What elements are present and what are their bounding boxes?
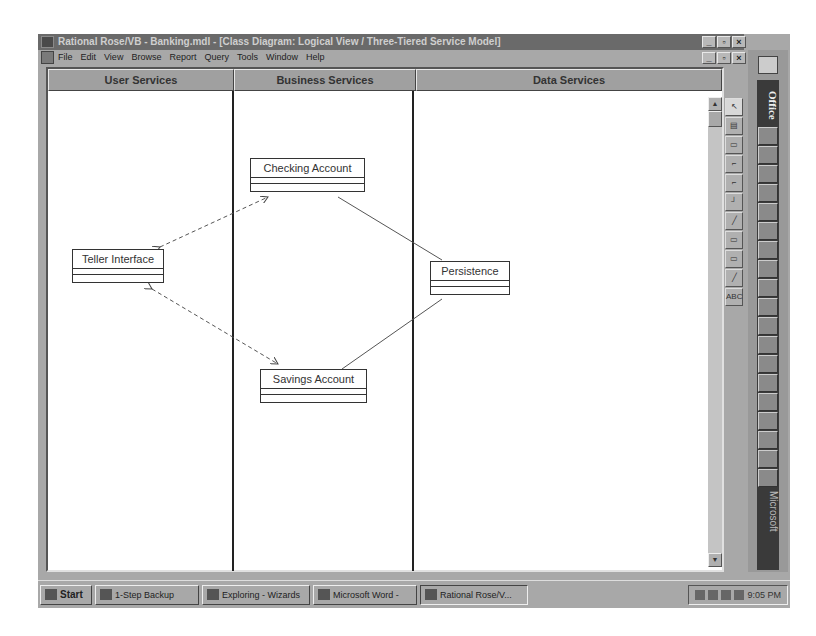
task-word[interactable]: Microsoft Word - bbox=[313, 585, 417, 605]
vertical-scrollbar[interactable]: ▲ ▼ bbox=[708, 97, 722, 567]
operations-compartment bbox=[431, 287, 509, 294]
help-icon[interactable] bbox=[758, 374, 778, 392]
task-rational-rose[interactable]: Rational Rose/V... bbox=[420, 585, 528, 605]
windows-logo-icon bbox=[45, 589, 57, 600]
image-icon[interactable] bbox=[758, 450, 778, 468]
menu-browse[interactable]: Browse bbox=[131, 50, 161, 65]
mail-icon[interactable] bbox=[758, 279, 778, 297]
diagram-toolbox: ↖ ▤ ▭ ⌐ ⌐ ┘ ╱ ▭ ▭ ╱ ABC bbox=[724, 98, 744, 578]
rose-app-icon bbox=[41, 36, 54, 48]
task-label: Rational Rose/V... bbox=[440, 586, 512, 604]
task-exploring[interactable]: Exploring - Wizards bbox=[202, 585, 310, 605]
interface-icon[interactable]: ⌐ bbox=[725, 174, 743, 192]
class-name: Persistence bbox=[431, 262, 509, 281]
settings-icon[interactable] bbox=[758, 469, 778, 487]
lane-divider[interactable] bbox=[412, 91, 414, 571]
menu-window[interactable]: Window bbox=[266, 50, 298, 65]
backup-icon bbox=[100, 589, 112, 600]
component-icon[interactable]: ▭ bbox=[725, 250, 743, 268]
office-shortcut-bar: Office Microsoft bbox=[748, 50, 788, 572]
office-logo-icon[interactable] bbox=[758, 56, 778, 74]
excel-icon[interactable] bbox=[758, 222, 778, 240]
network-icon[interactable] bbox=[721, 590, 731, 600]
task-label: 1-Step Backup bbox=[115, 586, 174, 604]
task-label: Exploring - Wizards bbox=[222, 586, 300, 604]
lane-user-services[interactable]: User Services bbox=[48, 69, 234, 91]
child-close-button[interactable]: × bbox=[732, 52, 746, 64]
child-window-controls: _ ▫ × bbox=[702, 52, 746, 64]
chart-icon[interactable] bbox=[758, 431, 778, 449]
package-icon[interactable]: ▭ bbox=[725, 231, 743, 249]
menu-edit[interactable]: Edit bbox=[81, 50, 97, 65]
class-savings-account[interactable]: Savings Account bbox=[260, 369, 367, 403]
document-icon[interactable] bbox=[41, 51, 54, 64]
operations-compartment bbox=[73, 275, 163, 282]
class-diagram-canvas[interactable]: User Services Business Services Data Ser… bbox=[46, 67, 724, 572]
minimize-button[interactable]: _ bbox=[702, 36, 716, 48]
clock[interactable]: 9:05 PM bbox=[747, 590, 781, 600]
desktop: Rational Rose/VB - Banking.mdl - [Class … bbox=[38, 34, 790, 608]
operations-compartment bbox=[261, 395, 366, 402]
system-tray: 9:05 PM bbox=[688, 585, 788, 605]
child-restore-button[interactable]: ▫ bbox=[717, 52, 731, 64]
restore-button[interactable]: ▫ bbox=[717, 36, 731, 48]
volume-icon[interactable] bbox=[695, 590, 705, 600]
office-button-strip: Office Microsoft bbox=[757, 80, 779, 570]
paint-icon[interactable] bbox=[758, 298, 778, 316]
start-button[interactable]: Start bbox=[40, 585, 92, 605]
globe-icon[interactable] bbox=[758, 317, 778, 335]
text-box-icon[interactable]: ▤ bbox=[725, 117, 743, 135]
dependency-icon[interactable]: ╱ bbox=[725, 212, 743, 230]
title-bar: Rational Rose/VB - Banking.mdl - [Class … bbox=[38, 34, 744, 50]
task-label: Microsoft Word - bbox=[333, 586, 399, 604]
class-persistence[interactable]: Persistence bbox=[430, 261, 510, 295]
menu-help[interactable]: Help bbox=[306, 50, 325, 65]
tools-icon[interactable] bbox=[758, 355, 778, 373]
close-button[interactable]: × bbox=[732, 36, 746, 48]
note-icon[interactable]: ▭ bbox=[725, 136, 743, 154]
relationship-lines bbox=[48, 69, 722, 569]
text-tool-icon[interactable]: ABC bbox=[725, 288, 743, 306]
clock-icon[interactable] bbox=[734, 590, 744, 600]
rose-icon bbox=[425, 589, 437, 600]
window-controls: _ ▫ × bbox=[702, 36, 746, 48]
class-icon[interactable]: ⌐ bbox=[725, 155, 743, 173]
map-icon[interactable] bbox=[758, 393, 778, 411]
new-document-icon[interactable] bbox=[758, 127, 778, 145]
find-icon[interactable] bbox=[758, 241, 778, 259]
word-icon[interactable] bbox=[758, 203, 778, 221]
office-title: Office bbox=[757, 80, 779, 126]
operations-compartment bbox=[251, 184, 364, 191]
menu-file[interactable]: File bbox=[58, 50, 73, 65]
class-checking-account[interactable]: Checking Account bbox=[250, 158, 365, 192]
scroll-thumb[interactable] bbox=[708, 111, 722, 127]
class-teller-interface[interactable]: Teller Interface bbox=[72, 249, 164, 283]
menu-report[interactable]: Report bbox=[169, 50, 196, 65]
anchor-icon[interactable]: ╱ bbox=[725, 269, 743, 287]
menu-query[interactable]: Query bbox=[204, 50, 229, 65]
menu-bar: File Edit View Browse Report Query Tools… bbox=[38, 50, 744, 65]
open-document-icon[interactable] bbox=[758, 146, 778, 164]
lane-data-services[interactable]: Data Services bbox=[416, 69, 722, 91]
taskbar: Start 1-Step Backup Exploring - Wizards … bbox=[38, 580, 790, 608]
wizard-icon[interactable] bbox=[758, 336, 778, 354]
lane-business-services[interactable]: Business Services bbox=[234, 69, 416, 91]
menu-view[interactable]: View bbox=[104, 50, 123, 65]
association-icon[interactable]: ┘ bbox=[725, 193, 743, 211]
shield-icon[interactable] bbox=[708, 590, 718, 600]
schedule-icon[interactable] bbox=[758, 165, 778, 183]
class-name: Savings Account bbox=[261, 370, 366, 389]
explorer-icon bbox=[207, 589, 219, 600]
scroll-down-button[interactable]: ▼ bbox=[708, 553, 722, 567]
edit-icon[interactable] bbox=[758, 412, 778, 430]
task-backup[interactable]: 1-Step Backup bbox=[95, 585, 199, 605]
word-icon bbox=[318, 589, 330, 600]
window-title: Rational Rose/VB - Banking.mdl - [Class … bbox=[58, 36, 501, 47]
lane-divider[interactable] bbox=[232, 91, 234, 571]
contact-icon[interactable] bbox=[758, 184, 778, 202]
scroll-up-button[interactable]: ▲ bbox=[708, 97, 722, 111]
menu-tools[interactable]: Tools bbox=[237, 50, 258, 65]
selection-arrow-icon[interactable]: ↖ bbox=[725, 98, 743, 116]
child-minimize-button[interactable]: _ bbox=[702, 52, 716, 64]
search-icon[interactable] bbox=[758, 260, 778, 278]
